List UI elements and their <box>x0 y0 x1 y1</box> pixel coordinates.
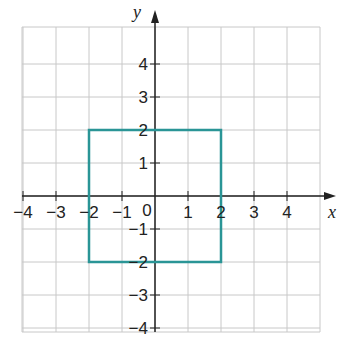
x-tick-label: −4 <box>13 203 32 222</box>
y-tick-label: −1 <box>129 220 148 239</box>
y-axis-label: y <box>131 2 141 22</box>
y-tick-label: −3 <box>129 286 148 305</box>
grid <box>22 27 320 332</box>
x-axis-arrow-icon <box>324 192 336 200</box>
x-tick-label: −2 <box>79 203 98 222</box>
x-tick-label: −3 <box>46 203 65 222</box>
labels: −4−3−2−112344321−1−2−3−40xy <box>13 2 336 338</box>
coordinate-plane: −4−3−2−112344321−1−2−3−40xy <box>0 0 339 360</box>
x-tick-label: 4 <box>282 203 291 222</box>
origin-label: 0 <box>142 201 151 220</box>
y-tick-label: −2 <box>129 253 148 272</box>
y-tick-label: 1 <box>139 154 148 173</box>
y-axis-arrow-icon <box>151 10 159 23</box>
axes <box>22 10 336 332</box>
x-tick-label: 3 <box>249 203 258 222</box>
y-tick-label: −4 <box>129 319 148 338</box>
y-tick-label: 3 <box>139 88 148 107</box>
x-tick-label: 2 <box>216 203 225 222</box>
y-tick-label: 2 <box>139 121 148 140</box>
x-axis-label: x <box>327 202 336 222</box>
y-tick-label: 4 <box>139 55 148 74</box>
x-tick-label: 1 <box>183 203 192 222</box>
